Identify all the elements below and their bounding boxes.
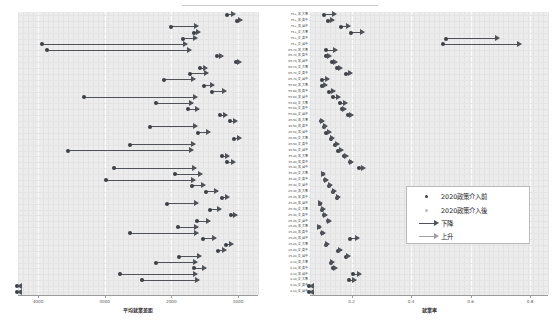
arrow-marker xyxy=(235,59,241,66)
arrow-marker xyxy=(358,165,365,172)
category-label: 0-14_男_國中 - xyxy=(258,273,310,276)
category-label: 35-44_男_大專 - xyxy=(258,155,310,158)
gridline-row xyxy=(18,133,258,134)
gridline-row xyxy=(18,280,258,281)
category-label: 45-54_女_國中 - xyxy=(258,149,310,152)
category-label: 45-54_男_大專 - xyxy=(258,119,310,122)
gridline-row xyxy=(18,39,258,40)
gridline-row xyxy=(18,162,258,163)
category-label: 15-24_女_國中 - xyxy=(258,255,310,258)
gridline-minor xyxy=(315,12,316,295)
gridline-row xyxy=(18,103,258,104)
category-label: 15-24_女_高中 - xyxy=(258,249,310,252)
arrow-marker xyxy=(217,247,226,254)
gridline-row xyxy=(18,121,258,122)
gridline-minor xyxy=(335,12,336,295)
arrow-marker xyxy=(321,82,327,89)
gridline-minor xyxy=(489,12,490,295)
legend: 2020政策介入前 2020政策介入後 下降 上升 xyxy=(406,186,530,244)
gridline-row xyxy=(310,168,548,169)
category-label: 35-44_女_大專 - xyxy=(258,172,310,175)
gridline-minor xyxy=(523,12,524,295)
gridline-minor xyxy=(434,12,435,295)
arrow-marker xyxy=(345,253,350,260)
gridline-row xyxy=(310,245,548,246)
arrow-marker xyxy=(349,235,360,242)
gridline-minor xyxy=(533,12,534,295)
gridline-minor xyxy=(23,12,24,295)
legend-item-post[interactable]: 2020政策介入後 xyxy=(407,203,529,217)
gridline-minor xyxy=(213,12,214,295)
gridline-minor xyxy=(208,12,209,295)
gridline-row xyxy=(310,174,548,175)
x-axis-left-title: 平均就業差距 xyxy=(18,306,258,313)
legend-item-pre[interactable]: 2020政策介入前 xyxy=(407,189,529,203)
category-label: 15-24_男_高中 - xyxy=(258,231,310,234)
arrow-marker xyxy=(340,23,351,30)
arrow-marker xyxy=(46,47,191,54)
arrow-marker xyxy=(141,277,199,284)
category-label: 55-64_女_國中 - xyxy=(258,113,310,116)
gridline-row xyxy=(18,86,258,87)
category-label: 55-64_男_國中 - xyxy=(258,96,310,99)
gridline-minor xyxy=(459,12,460,295)
gridline-minor xyxy=(243,12,244,295)
category-label: 45-54_女_大專 - xyxy=(258,137,310,140)
gridline-minor xyxy=(444,12,445,295)
legend-item-decrease[interactable]: 下降 xyxy=(407,216,529,230)
gridline-minor xyxy=(379,12,380,295)
x-axis-left: 平均就業差距 4000300020001000 xyxy=(18,295,258,315)
gridline-row xyxy=(310,127,548,128)
gridline-minor xyxy=(538,12,539,295)
legend-dot-post-icon xyxy=(415,203,437,217)
arrow-marker xyxy=(327,17,334,24)
arrow-marker xyxy=(105,177,196,184)
legend-item-increase[interactable]: 上升 xyxy=(407,229,529,243)
gridline-row xyxy=(310,86,548,87)
gridline-minor xyxy=(548,12,549,295)
gridline-minor xyxy=(320,12,321,295)
category-label: 0-14_女_大專 - xyxy=(258,278,310,281)
gridline-row xyxy=(310,68,548,69)
arrow-marker xyxy=(336,194,340,201)
gridline-row xyxy=(18,286,258,287)
category-label: 55-64_男_大專 - xyxy=(258,84,310,87)
gridline-row xyxy=(310,151,548,152)
arrow-marker xyxy=(211,88,226,95)
category-label: 45-54_男_國中 - xyxy=(258,131,310,134)
gridline-row xyxy=(18,74,258,75)
arrow-marker xyxy=(163,76,194,83)
gridline-minor xyxy=(384,12,385,295)
gridline-minor xyxy=(399,12,400,295)
category-label: 75+_女_高中 - xyxy=(258,37,310,40)
category-label: 75+_女_大專 - xyxy=(258,31,310,34)
gridline-minor xyxy=(439,12,440,295)
x-tick xyxy=(171,295,172,298)
gridline-row xyxy=(310,15,548,16)
gridline-row xyxy=(310,280,548,281)
arrow-marker xyxy=(327,218,331,225)
arrow-marker xyxy=(197,129,210,136)
gridline-row xyxy=(310,39,548,40)
arrow-marker xyxy=(221,194,228,201)
arrow-marker xyxy=(205,188,218,195)
arrow-marker xyxy=(347,112,353,119)
gridline-minor xyxy=(233,12,234,295)
gridline-minor xyxy=(18,12,19,295)
gridline-row xyxy=(310,145,548,146)
gridline-row xyxy=(310,92,548,93)
gridline-row xyxy=(18,239,258,240)
gridline-minor xyxy=(429,12,430,295)
arrow-marker xyxy=(226,11,235,18)
gridline-row xyxy=(18,62,258,63)
category-label: 25-34_男_大專 - xyxy=(258,190,310,193)
arrow-marker xyxy=(216,53,223,60)
arrow-marker xyxy=(233,135,241,142)
x-tick-label: 4000 xyxy=(33,299,44,304)
gridline-row xyxy=(18,27,258,28)
gridline-row xyxy=(18,257,258,258)
gridline-minor xyxy=(479,12,480,295)
gridline-row xyxy=(18,245,258,246)
x-tick xyxy=(105,295,106,298)
gridline-minor xyxy=(58,12,59,295)
